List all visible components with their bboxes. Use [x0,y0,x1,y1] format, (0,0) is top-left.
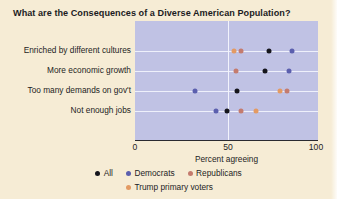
legend-item-all[interactable]: All [95,168,113,178]
data-point-trump-primary-voters-row-2 [277,89,282,94]
legend-swatch-icon [126,185,131,190]
data-point-trump-primary-voters-row-0 [231,49,236,54]
legend-swatch-icon [126,171,131,176]
x-tick-50: 50 [223,142,233,152]
data-point-democrats-row-0 [290,49,295,54]
chart-figure: What are the Consequences of a Diverse A… [0,0,337,199]
x-tick-100: 100 [309,142,323,152]
chart-legend: AllDemocratsRepublicans Trump primary vo… [0,166,337,194]
gridline-x-50 [228,21,229,140]
data-point-democrats-row-3 [213,109,218,114]
y-axis-label-0: Enriched by different cultures [7,46,131,55]
data-point-republicans-row-3 [239,109,244,114]
legend-item-trump-primary-voters[interactable]: Trump primary voters [126,182,213,192]
legend-swatch-icon [188,171,193,176]
legend-label: All [104,168,113,178]
y-axis-label-1: More economic growth [7,66,131,75]
legend-row-primary: AllDemocratsRepublicans [0,166,337,180]
data-point-all-row-2 [235,89,240,94]
legend-swatch-icon [95,171,100,176]
y-axis-label-2: Too many demands on gov't [7,86,131,95]
x-axis-line [135,140,318,141]
data-point-republicans-row-0 [239,49,244,54]
x-tick-0: 0 [133,142,138,152]
data-point-democrats-row-2 [193,89,198,94]
legend-row-secondary: Trump primary voters [0,180,337,194]
x-axis-title: Percent agreeing [135,154,318,164]
legend-label: Democrats [134,168,174,178]
plot-area [135,21,318,140]
y-axis-label-3: Not enough jobs [7,106,131,115]
legend-label: Republicans [196,168,242,178]
data-point-republicans-row-1 [233,69,238,74]
legend-item-democrats[interactable]: Democrats [126,168,175,178]
data-point-all-row-1 [262,69,267,74]
gridline-row-2 [135,91,318,92]
data-point-all-row-0 [266,49,271,54]
data-point-all-row-3 [224,109,229,114]
legend-label: Trump primary voters [134,182,213,192]
data-point-democrats-row-1 [286,69,291,74]
data-point-trump-primary-voters-row-3 [253,109,258,114]
data-point-republicans-row-2 [284,89,289,94]
legend-item-republicans[interactable]: Republicans [188,168,242,178]
